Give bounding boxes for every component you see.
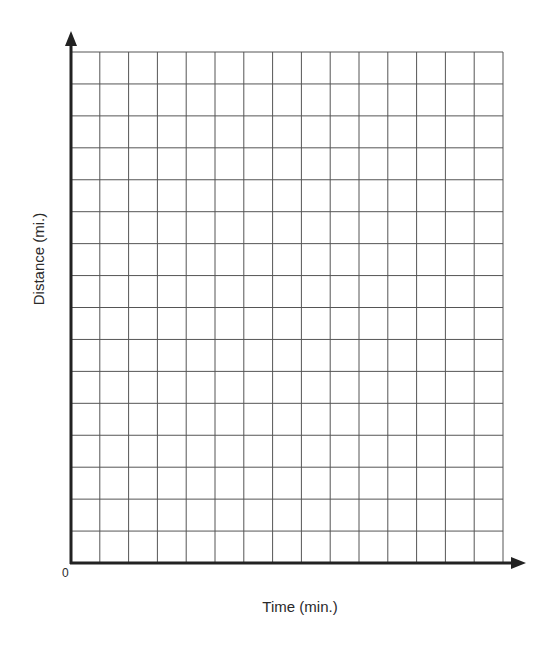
grid-lines (71, 52, 503, 563)
y-axis-arrow-icon (65, 31, 77, 46)
x-axis-arrow-icon (511, 557, 526, 569)
axes (65, 31, 526, 569)
blank-graph (0, 0, 552, 646)
y-axis-label: Distance (mi.) (30, 213, 47, 306)
x-axis-label: Time (min.) (262, 598, 337, 615)
origin-label: 0 (62, 566, 69, 580)
